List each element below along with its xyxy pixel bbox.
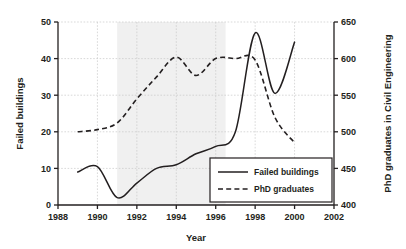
x-tick-label: 2002 (324, 212, 344, 222)
y2-tick-label: 450 (341, 164, 356, 174)
x-tick-label: 1990 (87, 212, 107, 222)
x-tick-label: 1998 (245, 212, 265, 222)
x-tick-label: 1988 (48, 212, 68, 222)
y2-tick-label: 600 (341, 54, 356, 64)
y2-axis-title: PhD graduates in Civil Engineering (382, 34, 393, 193)
y2-tick-label: 650 (341, 17, 356, 27)
y-tick-label: 40 (41, 54, 51, 64)
chart-figure: 01020304050 400450500550600650 198819901… (0, 0, 406, 249)
y-tick-label: 0 (46, 200, 51, 210)
legend-box (210, 158, 332, 202)
legend-label-failed-buildings: Failed buildings (254, 167, 319, 177)
y2-tick-label: 550 (341, 91, 356, 101)
x-tick-label: 2000 (285, 212, 305, 222)
chart-svg: 01020304050 400450500550600650 198819901… (0, 0, 406, 249)
x-tick-label: 1994 (166, 212, 186, 222)
chart-legend[interactable]: Failed buildings PhD graduates (210, 158, 332, 202)
y2-tick-label: 500 (341, 127, 356, 137)
y-tick-label: 30 (41, 91, 51, 101)
x-tick-label: 1996 (206, 212, 226, 222)
y-tick-label: 10 (41, 164, 51, 174)
legend-label-phd-graduates: PhD graduates (254, 184, 314, 194)
y-tick-label: 20 (41, 127, 51, 137)
x-tick-label: 1992 (127, 212, 147, 222)
x-axis-title: Year (186, 232, 206, 243)
y-axis-title: Failed buildings (14, 77, 25, 149)
shaded-band (117, 22, 225, 205)
y-tick-label: 50 (41, 17, 51, 27)
y2-tick-label: 400 (341, 200, 356, 210)
